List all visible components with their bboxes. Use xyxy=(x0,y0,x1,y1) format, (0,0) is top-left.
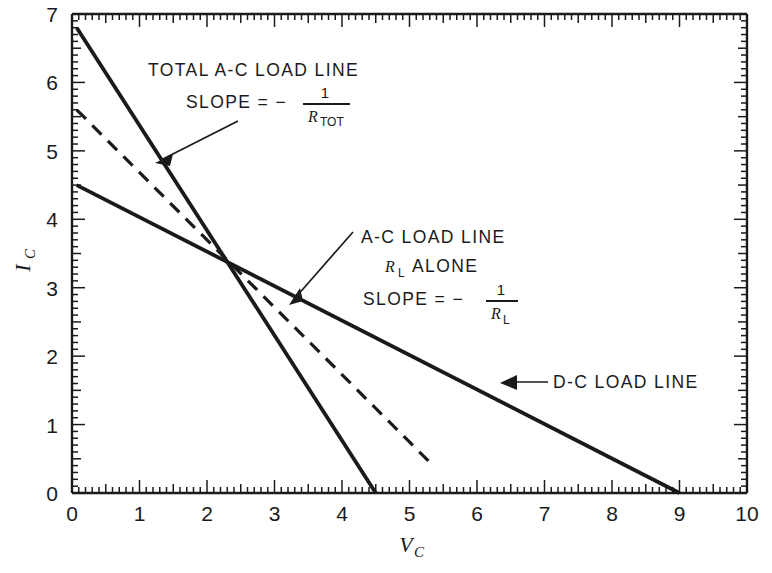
y-tick-label: 0 xyxy=(46,482,58,505)
y-tick-label: 2 xyxy=(46,345,58,368)
x-tick-label: 10 xyxy=(735,502,758,525)
y-axis-title-sub: C xyxy=(22,248,38,259)
x-tick-label: 7 xyxy=(539,502,551,525)
y-tick-label: 1 xyxy=(46,414,58,437)
y-tick-label: 3 xyxy=(46,277,58,300)
annotation-total-ac-title: TOTAL A-C LOAD LINE xyxy=(148,60,359,80)
x-tick-label: 5 xyxy=(404,502,416,525)
chart-canvas: 01234567891001234567 I C V C TOTAL A-C L… xyxy=(0,0,772,573)
annotation-ac-rl-r-sub: L xyxy=(398,266,405,280)
annotation-dc-label: D-C LOAD LINE xyxy=(553,372,699,392)
x-tick-label: 8 xyxy=(606,502,618,525)
annotation-total-ac-frac-denominator: R xyxy=(307,108,318,125)
x-tick-label: 1 xyxy=(134,502,146,525)
x-tick-label: 9 xyxy=(674,502,686,525)
annotation-total-ac-slope-label: SLOPE = − xyxy=(186,92,287,112)
annotation-ac-rl-frac-denominator-sub: L xyxy=(503,313,510,327)
x-tick-label: 6 xyxy=(471,502,483,525)
annotation-ac-rl-frac-numerator: 1 xyxy=(497,281,505,298)
y-tick-label: 6 xyxy=(46,71,58,94)
annotation-total-ac-frac-numerator: 1 xyxy=(321,84,329,101)
x-tick-label: 4 xyxy=(336,502,348,525)
annotation-ac-rl-r: R xyxy=(384,258,395,275)
y-tick-label: 5 xyxy=(46,140,58,163)
annotation-ac-rl-alone: ALONE xyxy=(412,256,478,276)
y-tick-label: 4 xyxy=(46,208,58,231)
annotation-ac-rl-frac-denominator: R xyxy=(490,305,501,322)
x-tick-label: 2 xyxy=(201,502,213,525)
x-tick-label: 3 xyxy=(269,502,281,525)
x-axis-title-sub: C xyxy=(414,544,425,560)
annotation-ac-rl-slope-label: SLOPE = − xyxy=(363,289,464,309)
load-line-figure: 01234567891001234567 I C V C TOTAL A-C L… xyxy=(0,0,772,573)
x-tick-label: 0 xyxy=(66,502,78,525)
annotation-total-ac-frac-denominator-sub: TOT xyxy=(320,115,344,129)
y-tick-label: 7 xyxy=(46,3,58,26)
annotation-ac-rl-title: A-C LOAD LINE xyxy=(361,227,506,247)
